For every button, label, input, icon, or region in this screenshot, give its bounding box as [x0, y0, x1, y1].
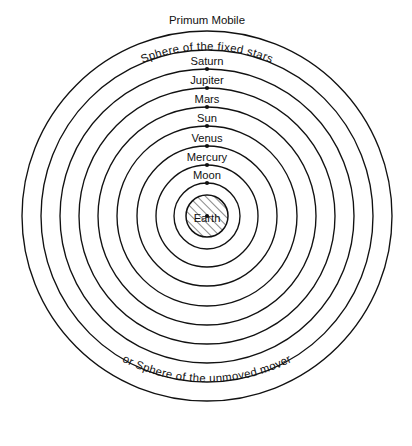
label-moon: Moon [193, 169, 221, 181]
label-sun: Sun [197, 112, 217, 124]
geocentric-diagram: Primum Mobile Sphere of the fixed stars … [0, 0, 412, 446]
sun-dot [205, 124, 209, 128]
cosmos-svg: Primum Mobile Sphere of the fixed stars … [0, 0, 412, 446]
saturn-dot [205, 67, 209, 71]
label-saturn: Saturn [191, 55, 224, 67]
mercury-dot [205, 163, 209, 167]
jupiter-dot [205, 86, 209, 90]
moon-dot [205, 181, 209, 185]
label-venus: Venus [191, 132, 223, 144]
label-unmoved-mover-text: or Sphere of the unmoved mover [121, 352, 293, 384]
label-mercury: Mercury [187, 151, 228, 163]
mars-dot [205, 105, 209, 109]
label-jupiter: Jupiter [190, 74, 224, 86]
venus-dot [205, 144, 209, 148]
label-mars: Mars [195, 93, 220, 105]
label-earth: Earth [194, 212, 221, 224]
label-primum-mobile: Primum Mobile [169, 14, 245, 26]
label-unmoved-mover: or Sphere of the unmoved mover [121, 352, 293, 384]
